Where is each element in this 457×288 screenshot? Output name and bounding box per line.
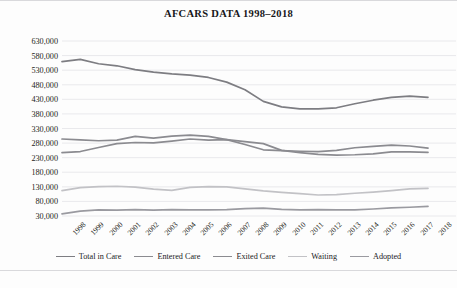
x-axis-label: 1998 xyxy=(70,220,87,237)
legend-swatch-icon xyxy=(213,256,232,257)
chart-legend: Total in CareEntered CareExited CareWait… xyxy=(0,252,457,261)
legend-label: Adopted xyxy=(373,252,401,261)
x-axis-label: 2016 xyxy=(400,220,417,237)
chart-page: AFCARS DATA 1998–2018 630,000580,000530,… xyxy=(0,0,457,288)
x-axis-label: 2001 xyxy=(125,220,142,237)
legend-label: Total in Care xyxy=(79,252,122,261)
legend-swatch-icon xyxy=(56,256,75,257)
x-axis-label: 2005 xyxy=(199,220,216,237)
legend-swatch-icon xyxy=(288,256,307,257)
x-axis-label: 2004 xyxy=(180,220,197,237)
x-axis-label: 2002 xyxy=(144,220,161,237)
x-axis-label: 2017 xyxy=(418,220,435,237)
x-axis-label: 2018 xyxy=(436,220,453,237)
x-axis-label: 2012 xyxy=(327,220,344,237)
legend-item-exited-care[interactable]: Exited Care xyxy=(213,252,275,261)
x-axis-label: 2000 xyxy=(107,220,124,237)
x-axis-label: 2009 xyxy=(272,220,289,237)
legend-item-adopted[interactable]: Adopted xyxy=(350,252,401,261)
legend-swatch-icon xyxy=(350,256,369,257)
legend-label: Entered Care xyxy=(157,252,200,261)
x-axis-label: 2006 xyxy=(217,220,234,237)
x-axis-label: 2003 xyxy=(162,220,179,237)
legend-item-total-in-care[interactable]: Total in Care xyxy=(56,252,122,261)
x-axis-tick-labels: 1998199920002001200220032004200520062007… xyxy=(0,0,457,288)
legend-label: Exited Care xyxy=(236,252,275,261)
legend-label: Waiting xyxy=(311,252,337,261)
x-axis-label: 2014 xyxy=(363,220,380,237)
x-axis-label: 2013 xyxy=(345,220,362,237)
legend-item-waiting[interactable]: Waiting xyxy=(288,252,337,261)
x-axis-label: 2008 xyxy=(253,220,270,237)
bottom-divider xyxy=(0,270,457,271)
legend-item-entered-care[interactable]: Entered Care xyxy=(134,252,200,261)
x-axis-label: 1999 xyxy=(89,220,106,237)
x-axis-label: 2015 xyxy=(382,220,399,237)
legend-swatch-icon xyxy=(134,256,153,257)
x-axis-label: 2007 xyxy=(235,220,252,237)
x-axis-label: 2011 xyxy=(308,220,325,237)
x-axis-label: 2010 xyxy=(290,220,307,237)
